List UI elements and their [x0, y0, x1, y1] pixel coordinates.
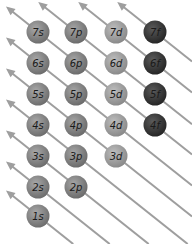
orbital-2p: 2p — [65, 176, 88, 199]
orbital-4f: 4f — [144, 114, 167, 137]
orbital-label: 5d — [110, 89, 123, 100]
orbital-4d: 4d — [105, 114, 128, 137]
orbital-label: 6p — [70, 58, 83, 69]
orbital-5d: 5d — [105, 83, 128, 106]
orbital-label: 2p — [70, 182, 83, 193]
orbital-label: 4s — [32, 120, 44, 131]
orbitals-layer: 7s7p7d7f6s6p6d6f5s5p5d5f4s4p4d4f3s3p3d2s… — [27, 21, 167, 228]
orbital-6p: 6p — [65, 52, 88, 75]
diagonal-arrow-2s — [12, 166, 110, 244]
orbital-label: 4f — [150, 120, 161, 131]
orbital-7s: 7s — [27, 21, 50, 44]
orbital-1s: 1s — [27, 205, 50, 228]
orbital-label: 7s — [32, 27, 44, 38]
orbital-7d: 7d — [105, 21, 128, 44]
orbital-label: 4p — [70, 120, 83, 131]
orbital-5s: 5s — [27, 83, 50, 106]
orbital-6f: 6f — [144, 52, 167, 75]
aufbau-diagram: 7s7p7d7f6s6p6d6f5s5p5d5f4s4p4d4f3s3p3d2s… — [0, 0, 192, 244]
orbital-4s: 4s — [27, 114, 50, 137]
orbital-label: 5f — [150, 89, 161, 100]
orbital-3s: 3s — [27, 145, 50, 168]
orbital-label: 3p — [70, 151, 83, 162]
orbital-5p: 5p — [65, 83, 88, 106]
orbital-3d: 3d — [105, 145, 128, 168]
orbital-label: 6s — [32, 58, 44, 69]
orbital-7p: 7p — [65, 21, 88, 44]
orbital-label: 6f — [150, 58, 161, 69]
orbital-label: 5p — [70, 89, 83, 100]
orbital-label: 1s — [32, 211, 44, 222]
orbital-label: 3s — [32, 151, 44, 162]
orbital-3p: 3p — [65, 145, 88, 168]
orbital-label: 4d — [110, 120, 123, 131]
orbital-6s: 6s — [27, 52, 50, 75]
orbital-label: 5s — [32, 89, 44, 100]
orbital-4p: 4p — [65, 114, 88, 137]
orbital-label: 7p — [70, 27, 83, 38]
orbital-label: 7d — [110, 27, 123, 38]
orbital-label: 7f — [150, 27, 161, 38]
orbital-5f: 5f — [144, 83, 167, 106]
orbital-label: 3d — [110, 151, 123, 162]
orbital-2s: 2s — [27, 176, 50, 199]
orbital-6d: 6d — [105, 52, 128, 75]
orbital-7f: 7f — [144, 21, 167, 44]
orbital-label: 6d — [110, 58, 123, 69]
orbital-label: 2s — [32, 182, 44, 193]
